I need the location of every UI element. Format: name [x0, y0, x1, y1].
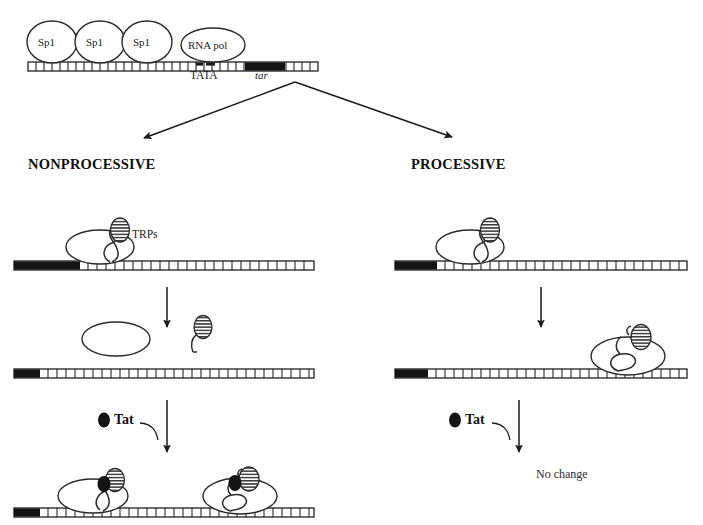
diagram-canvas: Sp1 Sp1 Sp1 RNA pol TATA tar NONPROCESSI…: [0, 0, 703, 525]
right-dna-row1: [395, 261, 687, 270]
tat-dot-icon: [98, 413, 110, 428]
right-processive-complex-row2: [591, 325, 665, 376]
right-elongation-complex-row1: [436, 218, 504, 264]
left-tat-complex-a: [58, 469, 128, 514]
left-dissociated-polymerase: [82, 322, 150, 356]
dna-label-tar: tar: [255, 70, 268, 81]
left-dna-row1: [14, 261, 314, 270]
protein-label-sp1-3: Sp1: [133, 37, 150, 48]
annotation-label-trps: TRPs: [132, 229, 158, 241]
protein-label-rna-pol: RNA pol: [188, 40, 227, 51]
left-dna-row3: [14, 508, 314, 517]
left-released-trps: [192, 316, 212, 353]
tat-dot-icon: [449, 413, 461, 428]
result-label-no-change: No change: [536, 468, 588, 480]
annotation-label-tat-right: Tat: [465, 413, 485, 427]
tar-block: [395, 261, 437, 269]
tar-block: [14, 508, 40, 516]
protein-label-sp1-2: Sp1: [86, 37, 103, 48]
tar-block: [14, 369, 40, 377]
tat-dot-icon: [229, 475, 242, 491]
tar-block: [14, 261, 80, 269]
top-dna-strand: [28, 62, 318, 71]
tat-dot-icon: [98, 476, 111, 492]
left-elongation-complex-row1: [66, 218, 134, 264]
dna-label-tata: TATA: [190, 70, 218, 82]
tar-block: [395, 369, 428, 377]
branch-label-nonprocessive: NONPROCESSIVE: [28, 157, 156, 172]
left-dna-row2: [14, 369, 314, 378]
diagram-graphics: [0, 0, 703, 525]
branch-label-processive: PROCESSIVE: [411, 157, 506, 172]
tata-box-mark: [196, 63, 203, 66]
branch-arrows: [144, 82, 452, 138]
protein-label-sp1-1: Sp1: [38, 37, 55, 48]
annotation-label-tat-left: Tat: [114, 413, 134, 427]
left-tat-complex-b: [203, 467, 277, 514]
